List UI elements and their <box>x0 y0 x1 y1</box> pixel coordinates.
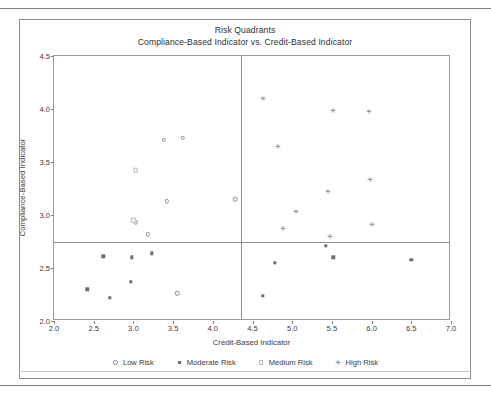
y-tick-label: 4.5 <box>39 52 50 61</box>
x-tick-label: 6.0 <box>366 324 377 333</box>
x-tick-label: 2.5 <box>88 324 99 333</box>
data-point <box>410 258 413 261</box>
y-tick-label: 3.0 <box>39 211 50 220</box>
data-point: ✳ <box>275 144 281 150</box>
chart-title: Risk Quadrants <box>20 24 470 36</box>
data-point: ✳ <box>327 234 333 240</box>
data-point <box>102 255 105 258</box>
x-tick-mark <box>411 321 412 324</box>
data-point <box>175 291 180 296</box>
chart-legend: Low RiskModerate RiskMedium Risk✳High Ri… <box>19 358 471 367</box>
x-tick-label: 5.0 <box>287 324 298 333</box>
data-point: ✳ <box>369 222 375 228</box>
x-tick-mark <box>253 321 254 324</box>
data-point <box>261 294 264 297</box>
data-point <box>150 251 153 254</box>
x-tick-label: 7.0 <box>446 324 457 333</box>
x-tick-label: 4.0 <box>208 324 219 333</box>
legend-label: Medium Risk <box>269 358 313 367</box>
legend-marker-icon <box>112 359 119 366</box>
data-point: ✳ <box>330 108 336 114</box>
legend-item[interactable]: ✳High Risk <box>335 358 379 367</box>
vertical-reference-line <box>241 56 242 319</box>
chart-subtitle: Compliance-Based Indicator vs. Credit-Ba… <box>20 36 470 48</box>
data-point <box>332 256 335 259</box>
y-tick-label: 2.5 <box>39 264 50 273</box>
chart-page: Risk Quadrants Compliance-Based Indicato… <box>0 0 491 394</box>
legend-label: Moderate Risk <box>187 358 236 367</box>
chart-titles: Risk Quadrants Compliance-Based Indicato… <box>20 24 470 48</box>
x-tick-mark <box>54 321 55 324</box>
x-tick-label: 3.5 <box>168 324 179 333</box>
x-tick-mark <box>372 321 373 324</box>
plot-area: 2.02.53.03.54.04.5 2.02.53.03.54.04.55.0… <box>53 55 450 320</box>
legend-marker-icon <box>258 359 265 366</box>
data-point <box>273 261 276 264</box>
data-point: ✳ <box>325 189 331 195</box>
legend-label: Low Risk <box>123 358 154 367</box>
data-point <box>129 280 132 283</box>
x-tick-mark <box>292 321 293 324</box>
x-tick-mark <box>133 321 134 324</box>
y-axis-label: Compliance-Based Indicator <box>17 55 29 320</box>
bottom-divider <box>0 385 491 386</box>
y-axis-label-text: Compliance-Based Indicator <box>19 139 28 237</box>
legend-marker-icon <box>176 359 183 366</box>
data-point <box>108 296 111 299</box>
legend-item[interactable]: Low Risk <box>112 358 154 367</box>
y-tick-mark <box>51 109 54 110</box>
y-tick-mark <box>51 162 54 163</box>
data-point <box>133 168 138 173</box>
data-point <box>130 256 133 259</box>
data-point <box>180 135 185 140</box>
y-tick-mark <box>51 268 54 269</box>
legend-item[interactable]: Medium Risk <box>258 358 313 367</box>
data-point <box>145 232 150 237</box>
x-tick-label: 4.5 <box>247 324 258 333</box>
legend-marker-icon: ✳ <box>335 359 342 366</box>
y-tick-label: 3.5 <box>39 158 50 167</box>
legend-item[interactable]: Moderate Risk <box>176 358 236 367</box>
data-point: ✳ <box>366 109 372 115</box>
data-point: ✳ <box>293 209 299 215</box>
horizontal-reference-line <box>54 242 449 243</box>
x-tick-label: 3.0 <box>128 324 139 333</box>
y-tick-label: 4.0 <box>39 105 50 114</box>
x-tick-mark <box>173 321 174 324</box>
legend-divider <box>19 371 471 372</box>
data-point: ✳ <box>280 226 286 232</box>
legend-label: High Risk <box>346 358 379 367</box>
x-tick-mark <box>94 321 95 324</box>
data-point <box>86 287 89 290</box>
x-tick-label: 6.5 <box>406 324 417 333</box>
data-point <box>161 137 166 142</box>
data-point <box>233 197 238 202</box>
x-axis-label: Credit-Based Indicator <box>53 338 450 347</box>
y-tick-mark <box>51 56 54 57</box>
data-point: ✳ <box>260 96 266 102</box>
data-point <box>131 218 136 223</box>
data-point: ✳ <box>367 177 373 183</box>
x-tick-mark <box>451 321 452 324</box>
x-tick-mark <box>332 321 333 324</box>
top-divider <box>0 8 491 9</box>
data-point <box>164 199 169 204</box>
data-point <box>324 244 327 247</box>
x-tick-label: 2.0 <box>49 324 60 333</box>
x-tick-label: 5.5 <box>327 324 338 333</box>
x-tick-mark <box>213 321 214 324</box>
y-tick-mark <box>51 215 54 216</box>
